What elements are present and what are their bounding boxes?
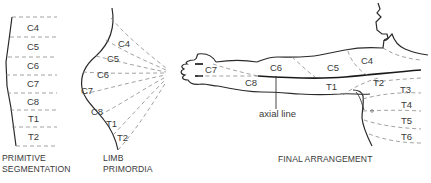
segment-label: C4 <box>118 38 130 49</box>
segment-label: C6 <box>27 60 39 71</box>
dermatome-boundaries <box>198 48 421 143</box>
caption-primitive-line1: PRIMITIVE <box>2 153 46 163</box>
segment-label: T2 <box>28 131 39 142</box>
axial-line <box>258 70 421 78</box>
segment-label: C5 <box>27 41 39 52</box>
segment-label: C8 <box>91 106 103 117</box>
segment-label: C8 <box>27 96 39 107</box>
segment-label: T6 <box>401 131 412 142</box>
segment-label: T4 <box>401 99 412 110</box>
segment-label: C5 <box>107 53 119 64</box>
segment-label: T1 <box>106 118 117 129</box>
segment-label: T1 <box>326 81 337 92</box>
trunk-outline <box>353 90 372 146</box>
caption-limb-line2: PRIMORDIA <box>103 164 153 174</box>
segment-label: C4 <box>361 55 373 66</box>
limb-primordia-panel: C4 C5 C6 C7 C8 T1 T2 LIMB PRIMORDIA <box>81 8 166 174</box>
axial-line-label: axial line <box>259 108 296 119</box>
segment-label: C7 <box>205 64 217 75</box>
primitive-segmentation-panel: C4 C5 C6 C7 C8 T1 T2 PRIMITIVE SEGMENTAT… <box>2 17 71 174</box>
caption-primitive-line2: SEGMENTATION <box>2 164 71 174</box>
segment-label: C6 <box>97 69 109 80</box>
segment-label: T3 <box>400 84 411 95</box>
segment-label: C7 <box>81 85 93 96</box>
segment-label: C8 <box>245 77 257 88</box>
caption-final: FINAL ARRANGEMENT <box>278 154 373 164</box>
segment-label: T1 <box>28 113 39 124</box>
segment-label: T2 <box>373 77 384 88</box>
segment-label: C4 <box>27 22 39 33</box>
shoulder-outline <box>320 40 384 55</box>
neck-outline <box>376 3 388 40</box>
final-arrangement-panel: C7 C6 C8 C5 C4 T1 T2 T3 T4 T5 T6 axial l… <box>181 3 428 164</box>
segment-label: C5 <box>327 62 339 73</box>
segment-label: C6 <box>270 62 282 73</box>
segment-label: C7 <box>27 78 39 89</box>
caption-limb-line1: LIMB <box>103 153 124 163</box>
segment-label: T2 <box>117 132 128 143</box>
dermatome-diagram: C4 C5 C6 C7 C8 T1 T2 PRIMITIVE SEGMENTAT… <box>0 0 431 183</box>
segment-label: T5 <box>401 115 412 126</box>
